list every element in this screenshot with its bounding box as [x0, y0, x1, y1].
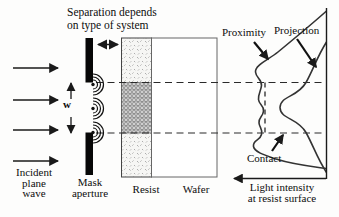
resist-label: Resist [126, 184, 166, 195]
resist-layer [122, 38, 152, 177]
intensity-axis-label: Light intensity at resist surface [237, 182, 327, 204]
mask-aperture-bar [86, 38, 94, 175]
wafer-label: Wafer [176, 184, 216, 195]
proximity-label: Proximity [222, 27, 266, 38]
proximity-pointer-arrow [254, 42, 268, 59]
mask-aperture-label: Mask aperture [62, 177, 118, 198]
aperture-width-label: w [63, 99, 71, 110]
lithography-figure: Separation depends on type of system w I… [0, 0, 339, 217]
contact-pointer-arrow [272, 135, 283, 151]
projection-pointer-arrow [297, 39, 316, 67]
separation-annotation: Separation depends on type of system [67, 6, 157, 32]
wafer-layer [152, 38, 218, 177]
projection-curve [280, 42, 327, 173]
incident-plane-wave-label: Incident plane wave [6, 167, 62, 199]
exposed-region [122, 83, 152, 134]
incident-wave-arrows [13, 68, 58, 161]
projection-label: Projection [274, 25, 319, 36]
contact-label: Contact [247, 153, 281, 164]
